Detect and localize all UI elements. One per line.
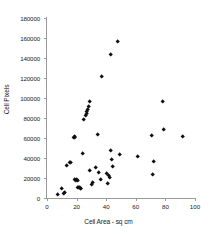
y-tick: 160000 xyxy=(44,38,47,39)
y-tick: 80000 xyxy=(44,118,47,119)
data-point xyxy=(110,164,115,169)
y-tick: 120000 xyxy=(44,78,47,79)
y-tick-label: 20000 xyxy=(24,175,40,182)
y-tick: 40000 xyxy=(44,158,47,159)
y-tick: 100000 xyxy=(44,98,47,99)
y-tick-label: 60000 xyxy=(24,135,40,142)
data-point xyxy=(108,149,113,154)
data-point xyxy=(108,175,113,180)
data-point xyxy=(105,182,110,187)
data-point xyxy=(160,100,165,105)
data-point xyxy=(95,132,100,137)
data-point xyxy=(79,186,84,191)
x-axis-line xyxy=(46,198,196,199)
data-point xyxy=(162,128,167,133)
data-point xyxy=(108,53,113,58)
plot-area: 0200004000060000800001000001200001400001… xyxy=(47,18,195,198)
data-point xyxy=(82,118,87,123)
data-point xyxy=(99,75,104,80)
x-tick: 80 xyxy=(165,198,166,201)
y-tick: 60000 xyxy=(44,138,47,139)
x-tick: 100 xyxy=(195,198,196,201)
data-point xyxy=(64,164,69,169)
y-tick: 20000 xyxy=(44,178,47,179)
data-point xyxy=(80,151,85,156)
y-tick-label: 80000 xyxy=(24,115,40,122)
y-tick: 180000 xyxy=(44,18,47,19)
data-point xyxy=(88,168,93,173)
y-tick-label: 180000 xyxy=(20,15,40,22)
x-tick-label: 0 xyxy=(45,203,48,210)
data-point xyxy=(98,177,103,182)
x-tick: 20 xyxy=(77,198,78,201)
data-point xyxy=(151,160,156,165)
x-tick-label: 20 xyxy=(73,203,80,210)
x-tick-label: 80 xyxy=(162,203,169,210)
x-tick: 0 xyxy=(47,198,48,201)
data-point xyxy=(117,152,122,157)
y-tick-label: 140000 xyxy=(20,55,40,62)
y-tick-label: 160000 xyxy=(20,35,40,42)
x-tick-label: 100 xyxy=(190,203,200,210)
x-axis-title: Cell Area - sq cm xyxy=(0,218,217,225)
data-point xyxy=(150,133,155,138)
data-point xyxy=(96,170,101,175)
data-point xyxy=(150,172,155,177)
y-axis-title: Cell Pixels xyxy=(3,50,10,150)
x-tick: 60 xyxy=(136,198,137,201)
data-point xyxy=(116,40,121,45)
data-point xyxy=(55,193,60,198)
x-tick: 40 xyxy=(106,198,107,201)
y-tick-label: 0 xyxy=(37,195,40,202)
y-tick-label: 40000 xyxy=(24,155,40,162)
data-point xyxy=(181,135,186,140)
y-tick-label: 120000 xyxy=(20,75,40,82)
y-tick: 140000 xyxy=(44,58,47,59)
data-point xyxy=(110,158,115,163)
scatter-chart: 0200004000060000800001000001200001400001… xyxy=(0,0,217,243)
x-tick-label: 60 xyxy=(132,203,139,210)
y-tick-label: 100000 xyxy=(20,95,40,102)
data-point xyxy=(135,155,140,160)
x-tick-label: 40 xyxy=(103,203,110,210)
